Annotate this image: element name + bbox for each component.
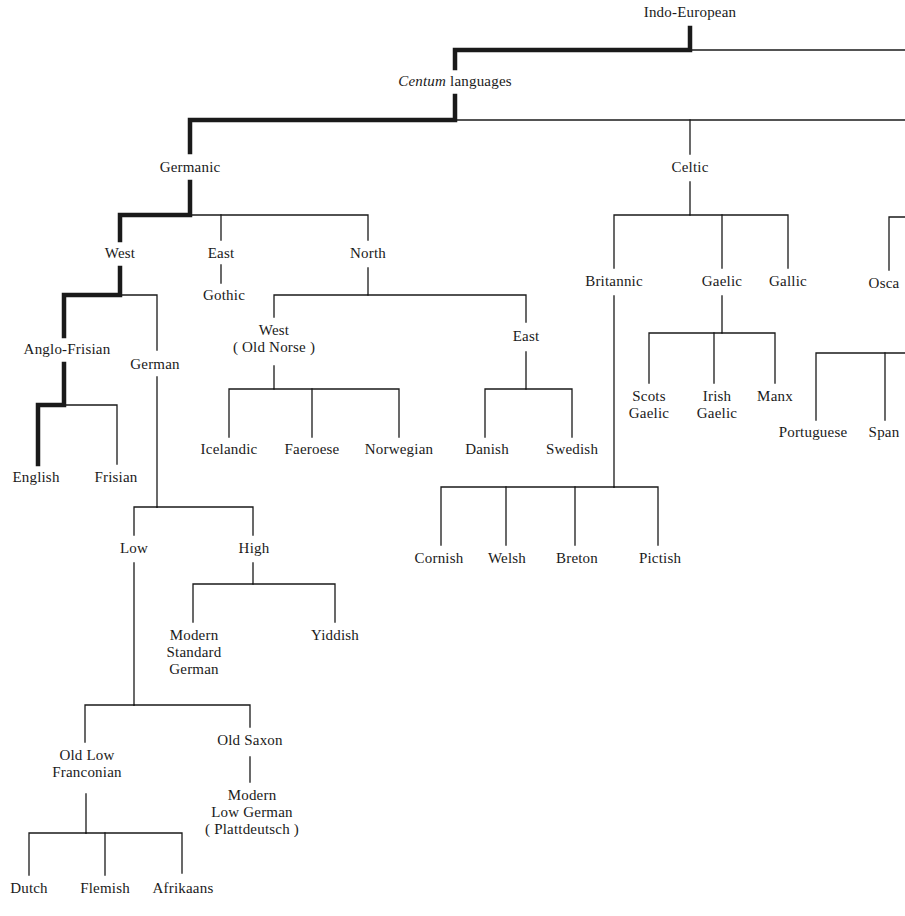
node-label: Irish <box>697 388 737 405</box>
node-label: Icelandic <box>201 441 258 458</box>
branch-line <box>29 833 86 875</box>
node-label: Frisian <box>94 469 137 486</box>
node-gallic: Gallic <box>769 273 807 290</box>
branch-line <box>441 487 614 545</box>
node-label: Flemish <box>80 880 130 897</box>
node-east: East <box>208 245 235 262</box>
node-oscan: Osca <box>869 275 900 292</box>
node-welsh: Welsh <box>488 550 526 567</box>
branch-line <box>649 296 722 383</box>
branch-line <box>614 487 658 545</box>
node-frisian: Frisian <box>94 469 137 486</box>
node-label: Portuguese <box>779 424 848 441</box>
node-label: ( Plattdeutsch ) <box>205 821 299 838</box>
node-label: Gaelic <box>702 273 742 290</box>
node-spanish: Span <box>869 424 900 441</box>
node-label: Cornish <box>415 550 464 567</box>
node-scots-gaelic: ScotsGaelic <box>629 388 669 422</box>
node-norwegian: Norwegian <box>365 441 433 458</box>
node-cornish: Cornish <box>415 550 464 567</box>
tree-connector-lines <box>0 0 905 916</box>
node-dutch: Dutch <box>10 880 48 897</box>
node-britannic: Britannic <box>585 273 643 290</box>
branch-line <box>157 507 253 535</box>
branch-line <box>229 366 274 437</box>
node-label: East <box>513 328 540 345</box>
node-label: Low <box>120 540 148 557</box>
node-label: West <box>233 322 315 339</box>
branch-line <box>85 705 134 742</box>
node-danish: Danish <box>465 441 509 458</box>
node-label: High <box>239 540 270 557</box>
node-east-norse: East <box>513 328 540 345</box>
branch-line <box>134 507 157 535</box>
node-german: German <box>130 356 180 373</box>
node-anglo-frisian: Anglo-Frisian <box>24 341 111 358</box>
node-label: Pictish <box>639 550 681 567</box>
node-modern-standard-german: ModernStandardGerman <box>167 627 222 678</box>
node-celtic: Celtic <box>671 159 708 176</box>
node-label: Old Low <box>52 747 121 764</box>
branch-line <box>193 563 253 622</box>
node-label: Modern <box>167 627 222 644</box>
node-old-saxon: Old Saxon <box>217 732 283 749</box>
node-label: Osca <box>869 275 900 292</box>
highlighted-branch-line <box>190 96 455 152</box>
node-label: ( Old Norse ) <box>233 339 315 356</box>
node-old-low-franconian: Old LowFranconian <box>52 747 121 781</box>
node-manx: Manx <box>757 388 793 405</box>
node-label: Yiddish <box>311 627 359 644</box>
node-label: Faeroese <box>285 441 340 458</box>
branch-line <box>274 268 368 317</box>
language-family-tree: Indo-EuropeanCentum languagesGermanicCel… <box>0 0 905 916</box>
branch-line <box>274 389 399 437</box>
node-label: Centum languages <box>398 73 512 90</box>
node-label: Franconian <box>52 764 121 781</box>
node-label: Standard <box>167 644 222 661</box>
node-label: Danish <box>465 441 509 458</box>
branch-line <box>722 333 775 383</box>
node-label: Scots <box>629 388 669 405</box>
node-label: Old Saxon <box>217 732 283 749</box>
node-pictish: Pictish <box>639 550 681 567</box>
node-low: Low <box>120 540 148 557</box>
branch-line <box>86 833 182 873</box>
branch-line <box>816 353 905 420</box>
node-english: English <box>12 469 59 486</box>
node-west: West <box>105 245 135 262</box>
node-label: Manx <box>757 388 793 405</box>
node-irish-gaelic: IrishGaelic <box>697 388 737 422</box>
node-label: Afrikaans <box>153 880 214 897</box>
node-high: High <box>239 540 270 557</box>
node-label: Gallic <box>769 273 807 290</box>
node-label: Modern <box>205 787 299 804</box>
node-germanic: Germanic <box>160 159 221 176</box>
node-label: Low German <box>205 804 299 821</box>
node-label: Gothic <box>203 287 245 304</box>
node-label: Welsh <box>488 550 526 567</box>
node-gothic: Gothic <box>203 287 245 304</box>
node-label: Gaelic <box>697 405 737 422</box>
node-label: Span <box>869 424 900 441</box>
node-portuguese: Portuguese <box>779 424 848 441</box>
branch-line <box>690 215 788 268</box>
highlighted-branch-line <box>120 182 190 240</box>
branch-line <box>120 295 157 350</box>
branch-line <box>368 295 526 322</box>
node-faeroese: Faeroese <box>285 441 340 458</box>
node-label: German <box>130 356 180 373</box>
node-label: Indo-European <box>644 4 737 21</box>
branch-line <box>253 584 335 622</box>
branch-line <box>134 705 250 727</box>
branch-line <box>64 405 117 464</box>
node-label: Breton <box>556 550 598 567</box>
node-label: West <box>105 245 135 262</box>
node-breton: Breton <box>556 550 598 567</box>
highlighted-branch-line <box>38 364 64 464</box>
node-label: Gaelic <box>629 405 669 422</box>
branch-line <box>190 215 368 240</box>
node-indo-european: Indo-European <box>644 4 737 21</box>
node-swedish: Swedish <box>546 441 598 458</box>
branch-line <box>485 352 526 437</box>
branch-line <box>889 217 905 270</box>
